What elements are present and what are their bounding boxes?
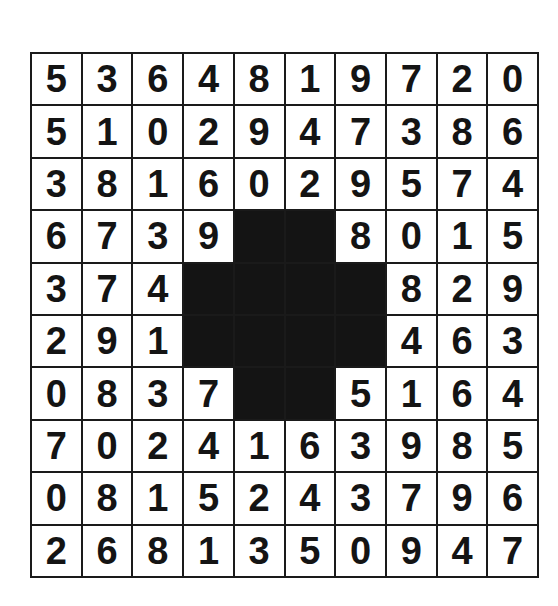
grid-cell: 9 [488,264,537,314]
grid-cell: 7 [488,526,537,576]
blocked-cell [235,264,284,314]
grid-cell: 2 [438,264,487,314]
grid-cell: 4 [286,106,335,156]
grid-cell: 7 [83,211,132,261]
grid-cell: 0 [32,473,81,523]
grid-cell: 3 [488,316,537,366]
grid-cell: 7 [438,159,487,209]
grid-cell: 2 [286,159,335,209]
grid-cell: 4 [286,473,335,523]
grid-cell: 8 [387,264,436,314]
grid-cell: 1 [133,473,182,523]
grid-cell: 1 [184,526,233,576]
grid-cell: 4 [387,316,436,366]
grid-cell: 9 [438,473,487,523]
grid-cell: 1 [286,54,335,104]
grid-cell: 8 [83,159,132,209]
grid-cell: 1 [438,211,487,261]
grid-cell: 5 [387,159,436,209]
grid-cell: 8 [438,421,487,471]
grid-cell: 6 [184,159,233,209]
grid-cell: 7 [387,473,436,523]
blocked-cell [235,211,284,261]
grid-cell: 0 [387,211,436,261]
grid-cell: 0 [83,421,132,471]
grid-cell: 2 [32,316,81,366]
grid-cell: 6 [32,211,81,261]
grid-cell: 3 [387,106,436,156]
grid-cell: 3 [336,473,385,523]
grid-cell: 2 [184,106,233,156]
blocked-cell [336,316,385,366]
grid-cell: 2 [438,54,487,104]
grid-cell: 6 [133,54,182,104]
grid-cell: 3 [133,368,182,418]
grid-cell: 7 [32,421,81,471]
grid-cell: 5 [184,473,233,523]
grid-cell: 7 [336,106,385,156]
grid-cell: 6 [286,421,335,471]
grid-cell: 8 [438,106,487,156]
blocked-cell [184,264,233,314]
blocked-cell [286,264,335,314]
grid-cell: 9 [184,211,233,261]
grid-cell: 3 [235,526,284,576]
grid-cell: 6 [438,316,487,366]
grid-cell: 7 [184,368,233,418]
grid-cell: 1 [83,106,132,156]
grid-cell: 2 [235,473,284,523]
grid-cell: 9 [387,421,436,471]
grid-cell: 6 [438,368,487,418]
blocked-cell [286,316,335,366]
grid-cell: 8 [235,54,284,104]
grid-cell: 4 [488,368,537,418]
grid-cell: 4 [438,526,487,576]
grid-cell: 3 [32,159,81,209]
grid-cell: 8 [336,211,385,261]
grid-cell: 9 [235,106,284,156]
grid-cell: 4 [133,264,182,314]
grid-cell: 9 [387,526,436,576]
grid-cell: 5 [336,368,385,418]
grid-cell: 5 [488,421,537,471]
grid-cell: 0 [235,159,284,209]
grid-cell: 3 [133,211,182,261]
blocked-cell [235,368,284,418]
blocked-cell [235,316,284,366]
grid-cell: 8 [133,526,182,576]
grid-cell: 5 [32,106,81,156]
grid-cell: 3 [32,264,81,314]
blocked-cell [286,368,335,418]
grid-cell: 0 [32,368,81,418]
grid-cell: 7 [83,264,132,314]
grid-cell: 4 [184,421,233,471]
grid-cell: 9 [336,54,385,104]
grid-cell: 6 [488,106,537,156]
grid-cell: 5 [488,211,537,261]
grid-cell: 1 [235,421,284,471]
grid-cell: 3 [336,421,385,471]
grid-cell: 2 [133,421,182,471]
grid-cell: 1 [387,368,436,418]
grid-cell: 4 [184,54,233,104]
grid-cell: 2 [32,526,81,576]
grid-cell: 6 [488,473,537,523]
grid-cell: 4 [488,159,537,209]
blocked-cell [184,316,233,366]
grid-cell: 3 [83,54,132,104]
grid-cell: 1 [133,159,182,209]
grid-cell: 6 [83,526,132,576]
number-grid: 5364819720510294738638160295746739801537… [30,52,539,578]
grid-cell: 0 [488,54,537,104]
grid-cell: 5 [286,526,335,576]
grid-cell: 9 [336,159,385,209]
grid-cell: 8 [83,473,132,523]
grid-cell: 9 [83,316,132,366]
grid-cell: 7 [387,54,436,104]
grid-cell: 0 [133,106,182,156]
grid-cell: 5 [32,54,81,104]
grid-cell: 1 [133,316,182,366]
blocked-cell [286,211,335,261]
grid-cell: 8 [83,368,132,418]
grid-cell: 0 [336,526,385,576]
